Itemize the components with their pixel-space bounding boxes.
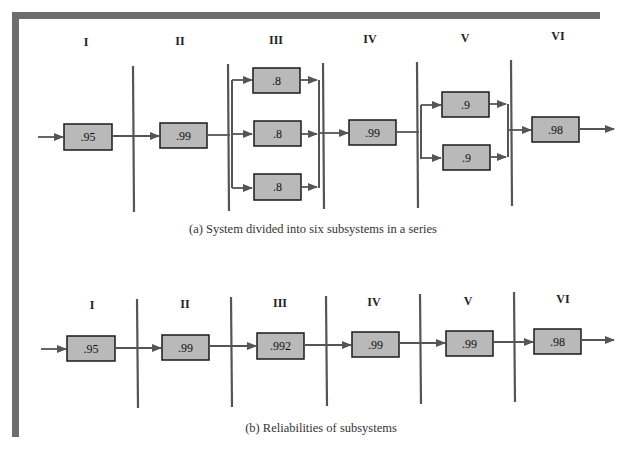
component-value: .8 [273,127,282,141]
reliability-value: .99 [178,341,193,355]
divider [326,296,327,406]
component-value: .9 [461,98,470,112]
subsystem-label-v: V [461,31,470,45]
panel-b: I II III IV V VI .95 .99 .992 .99 .99 .9… [41,292,614,435]
reliability-value: .99 [368,338,383,352]
component-value: .95 [81,130,96,144]
subsystem-label-vi: VI [551,29,565,43]
divider [323,63,324,209]
divider [228,64,229,211]
component-value: .9 [462,151,471,165]
reliability-value: .95 [84,342,99,356]
divider [133,66,134,212]
subsystem-label-iv: IV [363,32,377,46]
reliability-value: .98 [550,335,565,349]
divider [511,60,512,206]
component-value: .8 [273,180,282,194]
caption-a: (a) System divided into six subsystems i… [189,222,437,236]
component-value: .8 [272,74,281,88]
divider [417,62,418,208]
reliability-value: .992 [270,339,291,353]
subsystem-label-vi: VI [556,292,570,306]
panel-a: I II III IV V VI .95 .99 .8 .8 .8 [38,29,614,236]
subsystem-label-iii: III [273,296,287,310]
component-value: .98 [548,123,563,137]
divider [231,297,232,407]
subsystem-label-i: I [84,35,89,49]
divider [514,292,515,402]
subsystem-label-v: V [464,294,473,308]
reliability-value: .99 [462,337,477,351]
caption-b: (b) Reliabilities of subsystems [245,421,397,435]
divider [137,299,138,408]
subsystem-label-iii: III [269,33,283,47]
divider [420,294,421,404]
component-value: .99 [365,126,380,140]
subsystem-label-iv: IV [367,295,381,309]
reliability-diagram: I II III IV V VI .95 .99 .8 .8 .8 [0,0,627,452]
component-value: .99 [176,129,191,143]
subsystem-label-ii: II [180,297,190,311]
subsystem-label-i: I [90,298,95,312]
subsystem-label-ii: II [175,34,185,48]
